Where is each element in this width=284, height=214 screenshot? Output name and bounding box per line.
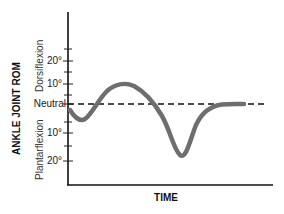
y-tick-label-neutral: Neutral <box>34 98 66 109</box>
plantarflexion-label: Plantarflexion <box>34 119 45 180</box>
y-tick-label: 20° <box>47 55 62 66</box>
y-axis-title: ANKLE JOINT ROM <box>11 62 22 155</box>
y-tick-label: 10° <box>47 78 62 89</box>
dorsiflexion-label: Dorsiflexion <box>34 40 45 92</box>
y-tick-label: 20° <box>47 155 62 166</box>
ankle-angle-curve <box>70 84 244 156</box>
y-tick-label: 10° <box>47 127 62 138</box>
ankle-rom-chart: 20° 10° Neutral 10° 20° Dorsiflexion Pla… <box>0 0 284 214</box>
x-axis-title: TIME <box>154 192 178 203</box>
